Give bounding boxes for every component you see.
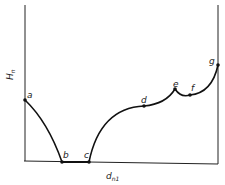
curve-a-b — [25, 100, 62, 162]
point-c — [87, 160, 91, 164]
label-e: e — [173, 79, 179, 89]
label-b: b — [63, 150, 69, 160]
label-d: d — [141, 95, 147, 105]
point-b — [60, 160, 64, 164]
label-c: c — [84, 150, 89, 160]
x-axis-label: dn1 — [106, 171, 119, 182]
curve-d-e — [144, 89, 175, 106]
curve-c-d — [89, 106, 144, 162]
label-f: f — [191, 83, 196, 93]
y-axis-label: Hn — [5, 69, 16, 80]
curve-e-f — [175, 89, 190, 96]
label-g: g — [209, 56, 215, 66]
label-a: a — [27, 90, 33, 100]
diagram-canvas: a b c d e f g Hn dn1 — [0, 0, 225, 185]
baseline — [24, 161, 218, 164]
curve-f-g — [190, 65, 218, 95]
point-g — [216, 63, 220, 67]
point-f — [188, 93, 192, 97]
